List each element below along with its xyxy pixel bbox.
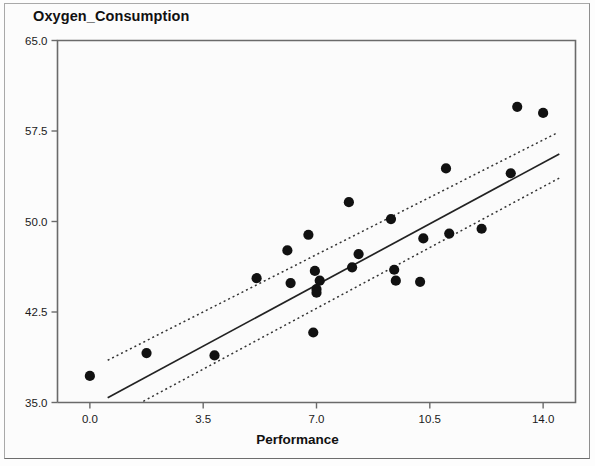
data-point xyxy=(85,371,95,381)
data-point xyxy=(209,350,219,360)
y-axis-tick-label: 57.5 xyxy=(25,125,47,137)
x-axis-tick-label: 10.5 xyxy=(419,413,441,425)
data-point xyxy=(415,277,425,287)
data-point xyxy=(286,278,296,288)
data-point xyxy=(386,214,396,224)
y-axis-tick-label: 50.0 xyxy=(25,216,47,228)
x-axis-tick-label: 0.0 xyxy=(82,413,98,425)
data-point xyxy=(444,228,454,238)
data-point xyxy=(391,276,401,286)
scatter-plot: 35.042.550.057.565.00.03.57.010.514.0 xyxy=(0,0,595,466)
data-point xyxy=(347,262,357,272)
data-point xyxy=(512,102,522,112)
data-point xyxy=(311,288,321,298)
data-point xyxy=(141,348,151,358)
y-axis-tick-label: 65.0 xyxy=(25,35,47,47)
chart-screenshot: Oxygen_Consumption 35.042.550.057.565.00… xyxy=(0,0,595,466)
data-point xyxy=(538,108,548,118)
data-point xyxy=(315,276,325,286)
x-axis-tick-label: 14.0 xyxy=(532,413,554,425)
data-point xyxy=(389,265,399,275)
data-point xyxy=(303,230,313,240)
data-point xyxy=(308,327,318,337)
data-point xyxy=(477,224,487,234)
y-axis-tick-label: 42.5 xyxy=(25,306,47,318)
x-axis-tick-label: 7.0 xyxy=(309,413,325,425)
data-point xyxy=(441,163,451,173)
data-point xyxy=(310,266,320,276)
data-point xyxy=(353,249,363,259)
data-point xyxy=(252,273,262,283)
data-point xyxy=(282,245,292,255)
y-axis-tick-label: 35.0 xyxy=(25,397,47,409)
plot-area-background xyxy=(58,41,576,403)
x-axis-tick-label: 3.5 xyxy=(195,413,211,425)
x-axis-label: Performance xyxy=(0,432,595,447)
data-point xyxy=(418,233,428,243)
data-point xyxy=(344,197,354,207)
data-point xyxy=(506,168,516,178)
